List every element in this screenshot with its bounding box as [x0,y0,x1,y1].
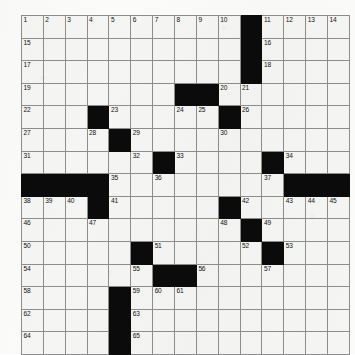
crossword-cell[interactable] [328,106,350,129]
crossword-cell[interactable] [328,151,350,174]
crossword-cell[interactable] [240,287,262,310]
crossword-cell[interactable] [196,38,218,61]
crossword-cell[interactable] [284,332,306,355]
crossword-cell[interactable]: 57 [262,264,284,287]
crossword-cell[interactable] [306,332,328,355]
crossword-cell[interactable]: 40 [65,196,87,219]
crossword-cell[interactable] [43,106,65,129]
crossword-cell[interactable]: 19 [22,83,44,106]
crossword-cell[interactable] [87,38,109,61]
crossword-cell[interactable]: 64 [22,332,44,355]
crossword-cell[interactable] [218,309,240,332]
crossword-cell[interactable]: 12 [284,16,306,39]
crossword-cell[interactable]: 8 [175,16,197,39]
crossword-cell[interactable] [109,38,131,61]
crossword-cell[interactable]: 51 [153,241,175,264]
crossword-cell[interactable] [87,309,109,332]
crossword-cell[interactable] [153,309,175,332]
crossword-cell[interactable] [284,38,306,61]
crossword-cell[interactable] [175,61,197,84]
crossword-cell[interactable] [87,61,109,84]
crossword-cell[interactable] [87,151,109,174]
crossword-cell[interactable]: 34 [284,151,306,174]
crossword-cell[interactable] [43,151,65,174]
crossword-cell[interactable] [109,83,131,106]
crossword-cell[interactable] [43,287,65,310]
crossword-cell[interactable] [196,287,218,310]
crossword-cell[interactable] [262,83,284,106]
crossword-cell[interactable] [240,332,262,355]
crossword-cell[interactable]: 20 [218,83,240,106]
crossword-cell[interactable]: 54 [22,264,44,287]
crossword-cell[interactable] [196,332,218,355]
crossword-cell[interactable] [240,264,262,287]
crossword-cell[interactable]: 59 [131,287,153,310]
crossword-cell[interactable] [284,309,306,332]
crossword-cell[interactable]: 65 [131,332,153,355]
crossword-cell[interactable]: 24 [175,106,197,129]
crossword-cell[interactable] [328,309,350,332]
crossword-cell[interactable] [65,106,87,129]
crossword-cell[interactable] [131,61,153,84]
crossword-cell[interactable]: 45 [328,196,350,219]
crossword-cell[interactable] [284,219,306,242]
crossword-cell[interactable] [196,309,218,332]
crossword-cell[interactable] [153,38,175,61]
crossword-cell[interactable]: 7 [153,16,175,39]
crossword-cell[interactable] [218,38,240,61]
crossword-cell[interactable] [284,287,306,310]
crossword-cell[interactable]: 6 [131,16,153,39]
crossword-cell[interactable] [109,219,131,242]
crossword-cell[interactable] [65,128,87,151]
crossword-cell[interactable]: 58 [22,287,44,310]
crossword-cell[interactable] [306,38,328,61]
crossword-cell[interactable] [196,196,218,219]
crossword-cell[interactable] [43,309,65,332]
crossword-cell[interactable]: 25 [196,106,218,129]
crossword-cell[interactable]: 27 [22,128,44,151]
crossword-cell[interactable]: 9 [196,16,218,39]
crossword-cell[interactable] [175,196,197,219]
crossword-cell[interactable]: 11 [262,16,284,39]
crossword-cell[interactable] [175,128,197,151]
crossword-cell[interactable]: 28 [87,128,109,151]
crossword-cell[interactable]: 29 [131,128,153,151]
crossword-cell[interactable] [65,83,87,106]
crossword-cell[interactable] [153,106,175,129]
crossword-cell[interactable]: 55 [131,264,153,287]
crossword-cell[interactable] [43,332,65,355]
crossword-cell[interactable] [109,264,131,287]
crossword-cell[interactable] [328,241,350,264]
crossword-cell[interactable]: 26 [240,106,262,129]
crossword-cell[interactable]: 18 [262,61,284,84]
crossword-cell[interactable] [109,241,131,264]
crossword-cell[interactable] [65,287,87,310]
crossword-cell[interactable] [262,287,284,310]
crossword-cell[interactable] [65,38,87,61]
crossword-cell[interactable]: 62 [22,309,44,332]
crossword-cell[interactable] [65,151,87,174]
crossword-cell[interactable]: 31 [22,151,44,174]
crossword-cell[interactable]: 61 [175,287,197,310]
crossword-cell[interactable] [175,174,197,197]
crossword-cell[interactable] [306,264,328,287]
crossword-cell[interactable] [328,61,350,84]
crossword-cell[interactable] [65,61,87,84]
crossword-cell[interactable] [153,61,175,84]
crossword-cell[interactable] [262,196,284,219]
crossword-cell[interactable]: 39 [43,196,65,219]
crossword-cell[interactable]: 53 [284,241,306,264]
crossword-cell[interactable]: 49 [262,219,284,242]
crossword-cell[interactable]: 56 [196,264,218,287]
crossword-cell[interactable] [306,106,328,129]
crossword-cell[interactable] [284,264,306,287]
crossword-cell[interactable] [65,241,87,264]
crossword-cell[interactable] [218,332,240,355]
crossword-cell[interactable]: 10 [218,16,240,39]
crossword-cell[interactable] [153,128,175,151]
crossword-cell[interactable] [131,174,153,197]
crossword-cell[interactable]: 48 [218,219,240,242]
crossword-cell[interactable] [306,128,328,151]
crossword-cell[interactable] [196,61,218,84]
crossword-cell[interactable]: 52 [240,241,262,264]
